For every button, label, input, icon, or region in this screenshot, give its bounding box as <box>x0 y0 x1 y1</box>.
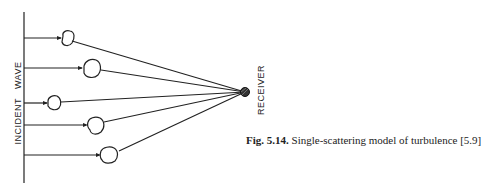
scattered-ray <box>72 41 245 92</box>
arrow-icon <box>43 101 48 105</box>
scattered-ray <box>101 70 245 92</box>
scatterer-blob <box>88 117 104 134</box>
scattered-ray <box>119 92 245 151</box>
arrow-icon <box>57 36 62 40</box>
scatterer-blob <box>62 31 74 46</box>
figure-caption: Fig. 5.14. Single-scattering model of tu… <box>246 134 481 146</box>
arrow-icon <box>78 66 83 70</box>
scattered-ray <box>61 92 245 102</box>
scattered-ray <box>104 92 245 122</box>
figure-number: Fig. 5.14. <box>246 134 289 146</box>
scatterer-blob <box>84 59 100 77</box>
incident-wave-label: INCIDENT WAVE <box>13 62 23 145</box>
caption-text: Single-scattering model of turbulence [5… <box>289 134 481 146</box>
scatterer-blob <box>100 147 117 163</box>
receiver-label: RECEIVER <box>256 65 266 115</box>
scatterer-blob <box>48 96 61 110</box>
